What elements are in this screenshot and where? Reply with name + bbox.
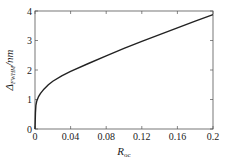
y-tick-label: 3 xyxy=(27,35,32,46)
y-tick-label: 0 xyxy=(27,124,32,135)
plot-frame xyxy=(35,11,213,129)
x-tick-label: 0.04 xyxy=(62,131,80,142)
x-tick-labels: 00.040.080.120.160.2 xyxy=(33,131,220,142)
x-tick-label: 0.16 xyxy=(169,131,187,142)
chart: 00.040.080.120.160.2 01234 Roc ΔFWHM/nm xyxy=(0,0,230,161)
y-tick-labels: 01234 xyxy=(27,6,32,135)
y-tick-label: 4 xyxy=(27,6,32,17)
y-tick-label: 2 xyxy=(27,65,32,76)
x-tick-label: 0.2 xyxy=(207,131,220,142)
x-axis-label: Roc xyxy=(116,145,130,159)
y-axis-label: ΔFWHM/nm xyxy=(3,49,16,91)
axis-ticks xyxy=(35,11,213,129)
x-tick-label: 0.08 xyxy=(97,131,115,142)
x-tick-label: 0.12 xyxy=(133,131,151,142)
y-tick-label: 1 xyxy=(27,94,32,105)
axes-box xyxy=(35,11,213,129)
data-line xyxy=(35,15,213,129)
x-tick-label: 0 xyxy=(33,131,38,142)
